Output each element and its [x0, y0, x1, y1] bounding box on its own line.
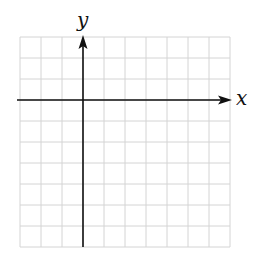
- y-axis-label: y: [77, 10, 88, 30]
- x-axis-label: x: [236, 88, 247, 108]
- grid-and-axes: [0, 0, 255, 253]
- coordinate-plane: x y: [0, 0, 255, 253]
- grid-lines: [20, 37, 230, 247]
